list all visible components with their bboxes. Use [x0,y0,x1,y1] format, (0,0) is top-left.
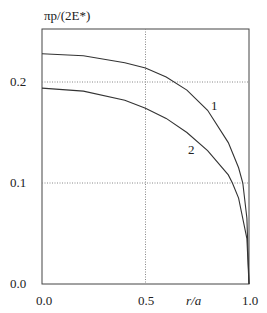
x-axis-label: r/a [186,293,201,309]
x-tick-0.5: 0.5 [138,293,154,309]
chart-plot [0,0,267,313]
y-tick-0.1: 0.1 [10,175,26,191]
series-2-label: 2 [188,142,195,158]
series-1-label: 1 [211,98,218,114]
y-axis-label: πp/(2E*) [44,8,90,24]
x-tick-1.0: 1.0 [242,293,258,309]
y-tick-0.0: 0.0 [10,276,26,292]
y-tick-0.2: 0.2 [10,74,26,90]
x-tick-0.0: 0.0 [36,293,52,309]
